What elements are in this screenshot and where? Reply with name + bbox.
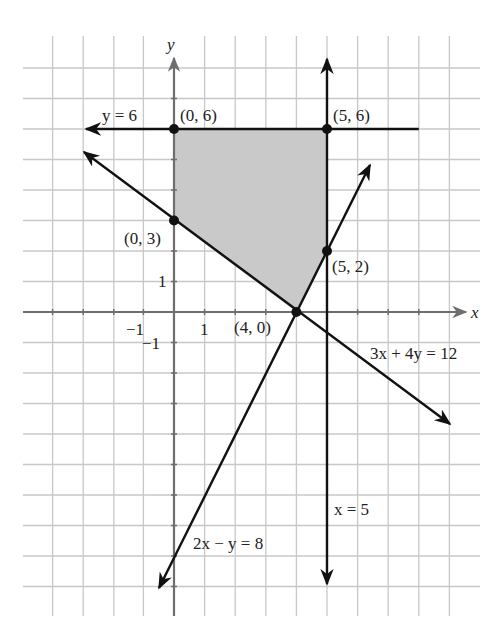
label-point-0-6: (0, 6) <box>180 106 217 125</box>
label-point-5-2: (5, 2) <box>332 257 369 276</box>
label-point-4-0: (4, 0) <box>234 318 271 337</box>
label-3x-plus-4y-equals-12: 3x + 4y = 12 <box>370 344 457 363</box>
y-axis-label: y <box>165 35 175 54</box>
tick-label-x-1: 1 <box>200 320 209 339</box>
point-5-2 <box>322 246 332 256</box>
label-point-5-6: (5, 6) <box>333 106 370 125</box>
point-0-3 <box>169 216 179 226</box>
point-0-6 <box>169 124 179 134</box>
label-y-equals-6: y = 6 <box>102 106 137 125</box>
point-4-0 <box>291 307 301 317</box>
linear-programming-graph: y x y = 6 (0, 6) (5, 6) (0, 3) (5, 2) (4… <box>0 0 499 630</box>
label-point-0-3: (0, 3) <box>124 229 161 248</box>
tick-label-y-1: 1 <box>158 272 167 291</box>
tick-label-y-neg1: −1 <box>142 334 160 353</box>
label-2x-minus-y-equals-8: 2x − y = 8 <box>193 534 263 553</box>
x-axis-label: x <box>470 303 479 322</box>
feasible-region <box>174 129 327 312</box>
label-x-equals-5: x = 5 <box>334 500 369 519</box>
point-5-6 <box>322 124 332 134</box>
